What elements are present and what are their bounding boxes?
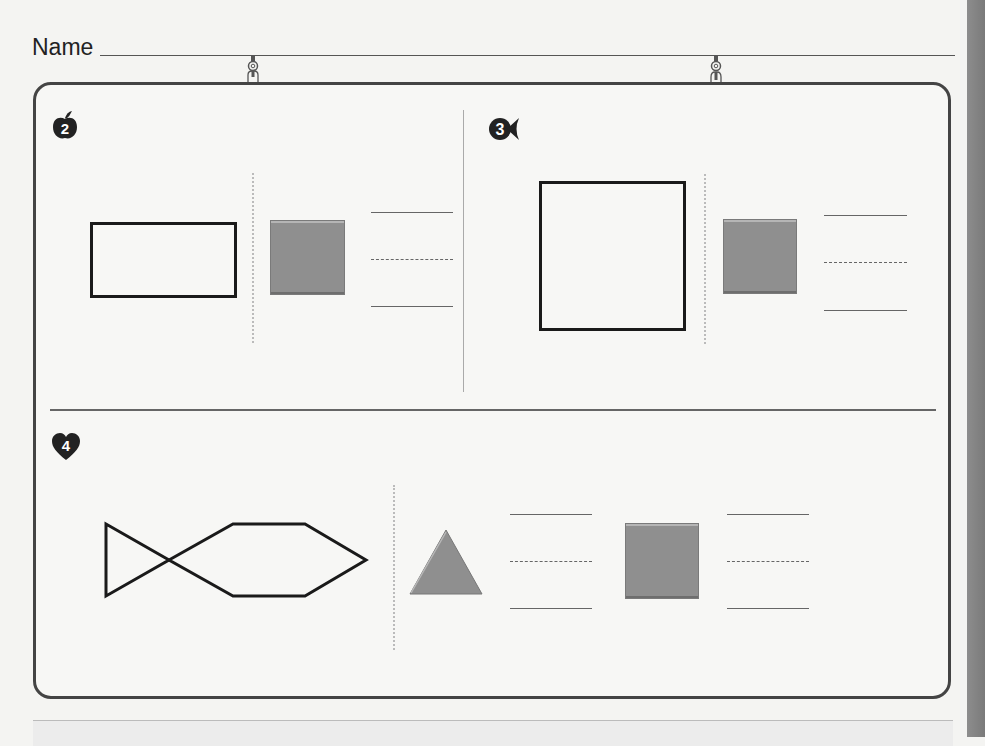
problem-2-separator	[252, 173, 254, 343]
problem-3-square-figure	[539, 181, 686, 331]
problem-4-triangle-answer-top-line[interactable]	[510, 514, 592, 515]
problem-4-triangle-piece	[408, 528, 484, 596]
problem-3-answer-bottom-line[interactable]	[824, 310, 907, 311]
problem-4-triangle-answer-mid-line[interactable]	[510, 561, 592, 562]
problem-3-square-piece	[723, 219, 797, 294]
problem-3-answer-mid-line[interactable]	[824, 262, 907, 263]
problem-2-answer-mid-line[interactable]	[371, 259, 453, 260]
svg-text:4: 4	[62, 437, 71, 454]
name-input-line[interactable]	[100, 55, 955, 56]
worksheet-frame	[33, 82, 951, 699]
problem-4-square-piece	[625, 523, 699, 599]
problem-2-badge: 2	[52, 110, 78, 144]
svg-text:3: 3	[496, 121, 505, 138]
problem-4-separator	[393, 485, 395, 650]
problem-2-rectangle-figure	[90, 222, 237, 298]
problem-4-square-answer-mid-line[interactable]	[727, 561, 809, 562]
section-divider-vertical	[463, 110, 464, 392]
fish-icon: 3	[488, 116, 520, 142]
problem-3-badge: 3	[488, 116, 520, 146]
name-label: Name	[32, 34, 93, 61]
problem-2-square-piece	[270, 220, 345, 295]
problem-2-answer-top-line[interactable]	[371, 212, 453, 213]
problem-4-fish-figure	[100, 518, 372, 602]
footer-bar	[33, 720, 953, 746]
problem-4-triangle-answer-bottom-line[interactable]	[510, 608, 592, 609]
problem-3-answer-top-line[interactable]	[824, 215, 907, 216]
problem-3-separator	[704, 174, 706, 344]
problem-4-square-answer-top-line[interactable]	[727, 514, 809, 515]
section-divider-horizontal	[50, 409, 936, 411]
problem-4-badge: 4	[52, 433, 80, 465]
svg-text:2: 2	[61, 120, 69, 137]
problem-2-answer-bottom-line[interactable]	[371, 306, 453, 307]
page-edge-shadow	[967, 0, 985, 737]
problem-4-square-answer-bottom-line[interactable]	[727, 608, 809, 609]
heart-icon: 4	[52, 433, 80, 461]
apple-icon: 2	[52, 110, 78, 140]
